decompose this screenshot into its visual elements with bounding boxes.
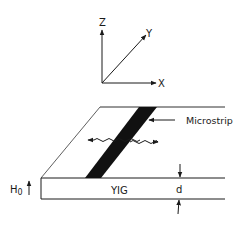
coordinate-axes: Z Y X bbox=[99, 17, 165, 89]
slab-left-edge bbox=[41, 107, 100, 178]
substrate-label: YIG bbox=[110, 185, 128, 196]
thickness-bottom-arrow bbox=[178, 200, 179, 214]
y-axis-label: Y bbox=[145, 28, 153, 39]
thickness-label: d bbox=[176, 184, 182, 195]
microstrip-label: Microstrip bbox=[186, 115, 233, 126]
z-axis-label: Z bbox=[99, 17, 106, 28]
microstrip-yig-diagram: Z Y X YIG Microstrip d H0 bbox=[0, 0, 246, 226]
microstrip: Microstrip bbox=[85, 107, 233, 178]
thickness-indicator: d bbox=[176, 164, 182, 214]
microstrip-conductor bbox=[85, 107, 157, 178]
field-label: H0 bbox=[10, 184, 23, 197]
field-label-subscript: 0 bbox=[18, 188, 23, 197]
bias-field: H0 bbox=[10, 181, 29, 197]
x-axis-label: X bbox=[158, 78, 165, 89]
y-axis-arrow bbox=[102, 35, 146, 83]
field-label-main: H bbox=[10, 184, 18, 195]
wave-right-arrow bbox=[130, 141, 158, 144]
wave-left-segment bbox=[94, 139, 116, 142]
